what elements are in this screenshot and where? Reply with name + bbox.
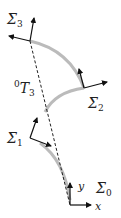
link-3-2 — [30, 41, 84, 88]
frame-2-label: Σ2 — [87, 95, 104, 113]
link-1-0 — [40, 143, 70, 200]
frame-0-label: Σ0 — [95, 180, 112, 198]
transform-label: 0T3 — [14, 79, 35, 98]
axis-x-label: x — [95, 200, 102, 213]
frame-1-axis-up — [30, 118, 37, 138]
link-2-1 — [45, 88, 84, 112]
frame-3-label: Σ3 — [6, 11, 23, 29]
frame-3-axis-left — [9, 36, 30, 41]
frame-1-label: Σ1 — [6, 130, 23, 148]
axis-y-label: y — [77, 180, 85, 193]
frame-2-axis-right — [84, 82, 107, 88]
transform-line — [30, 41, 70, 205]
kinematic-diagram: Σ3 0T3 Σ2 Σ1 y Σ0 x — [0, 0, 121, 218]
frame-3-axis-up — [30, 18, 34, 41]
